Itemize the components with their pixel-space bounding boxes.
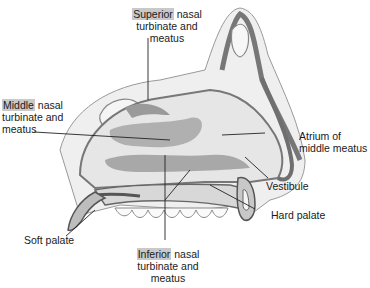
label-atrium-line2: middle meatus bbox=[299, 142, 367, 154]
label-middle-highlight: Middle bbox=[2, 99, 35, 111]
label-soft-palate: Soft palate bbox=[24, 234, 74, 246]
label-atrium-line1: Atrium of bbox=[299, 130, 341, 142]
label-inferior-line1: nasal bbox=[171, 248, 199, 260]
label-inferior-highlight: Inferior bbox=[137, 248, 172, 260]
label-atrium: Atrium of middle meatus bbox=[299, 130, 370, 154]
label-inferior-turbinate: Inferior nasal turbinate and meatus bbox=[120, 248, 216, 284]
label-inferior-line3: meatus bbox=[151, 272, 185, 284]
label-middle-line2: turbinate and bbox=[2, 111, 63, 123]
label-superior-highlight: Superior bbox=[132, 8, 174, 20]
label-superior-line3: meatus bbox=[150, 32, 184, 44]
label-vestibule: Vestibule bbox=[266, 180, 309, 192]
label-inferior-line2: turbinate and bbox=[137, 260, 198, 272]
label-superior-turbinate: Superior nasal turbinate and meatus bbox=[116, 8, 218, 44]
label-superior-line1: nasal bbox=[174, 8, 202, 20]
label-middle-line1: nasal bbox=[35, 99, 63, 111]
label-middle-turbinate: Middle nasal turbinate and meatus bbox=[2, 99, 92, 135]
label-middle-line3: meatus bbox=[2, 123, 36, 135]
label-hard-palate: Hard palate bbox=[271, 209, 325, 221]
label-superior-line2: turbinate and bbox=[136, 20, 197, 32]
